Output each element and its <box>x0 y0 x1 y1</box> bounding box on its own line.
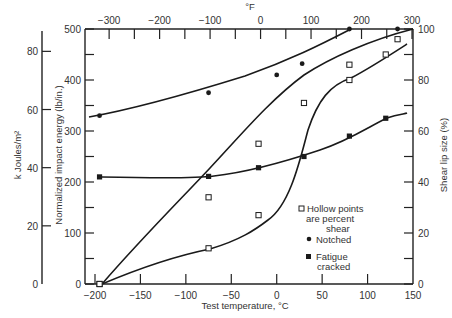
y-right-axis-ticks: 020406080100 <box>404 24 435 290</box>
y-right-tick-label: 0 <box>418 279 424 290</box>
fatigue-point <box>301 154 306 159</box>
y-right-tick-label: 80 <box>418 75 430 86</box>
x2-tick-label: 200 <box>353 15 370 26</box>
notched-point <box>206 90 211 95</box>
fatigue-shear-curve <box>102 44 407 284</box>
shear-point <box>395 37 400 42</box>
kj-tick-label: 0 <box>32 279 38 290</box>
y-tick-label: 500 <box>64 24 81 35</box>
notched-point <box>274 73 279 78</box>
filled-square-icon <box>306 254 311 259</box>
kj-axis: 020406080 <box>27 31 51 290</box>
legend-notched: Notched <box>316 234 351 245</box>
kj-tick-label: 80 <box>27 46 39 57</box>
shear-point <box>347 62 352 67</box>
x-tick-label: −200 <box>84 290 107 301</box>
shear-point <box>206 246 211 251</box>
y-tick-label: 0 <box>75 279 81 290</box>
x-axis-title: Test temperature, °C <box>201 300 288 311</box>
notched-point <box>395 27 400 32</box>
kj-tick-label: 40 <box>27 163 39 174</box>
filled-circle-icon <box>307 237 312 242</box>
x2-tick-label: 0 <box>258 15 264 26</box>
fatigue-point <box>97 174 102 179</box>
shear-point <box>97 281 102 286</box>
shear-point <box>206 195 211 200</box>
legend-hollow-line3: shear <box>326 223 350 234</box>
x2-tick-label: −300 <box>98 15 121 26</box>
x2-axis-title: °F <box>245 1 255 12</box>
notched-point <box>347 27 352 32</box>
shear-point <box>383 52 388 57</box>
notched-energy-curve <box>89 29 351 117</box>
fatigue-energy-curve <box>102 113 407 178</box>
y-right-tick-label: 60 <box>418 126 430 137</box>
x2-tick-label: −200 <box>148 15 171 26</box>
shear-point <box>347 77 352 82</box>
x-tick-label: 50 <box>317 290 329 301</box>
y-tick-label: 200 <box>64 177 81 188</box>
data-markers <box>97 27 400 287</box>
y-right-axis-title: Shear lip size (%) <box>438 118 449 192</box>
kj-tick-label: 20 <box>27 221 39 232</box>
legend-fatigue-line2: cracked <box>317 261 350 272</box>
x2-tick-label: 300 <box>404 15 421 26</box>
impact-energy-chart: 020406080 0100200300400500 020406080100 … <box>0 0 452 318</box>
x2-tick-label: 100 <box>303 15 320 26</box>
notched-point <box>97 113 102 118</box>
x-tick-label: −100 <box>175 290 198 301</box>
curves <box>89 29 413 284</box>
x-tick-label: 150 <box>405 290 422 301</box>
fatigue-point <box>206 174 211 179</box>
y-axis-ticks: 0100200300400500 <box>64 24 94 290</box>
y-right-tick-label: 20 <box>418 228 430 239</box>
kj-axis-title: k Joules/m² <box>12 131 23 180</box>
y-tick-label: 300 <box>64 126 81 137</box>
y-tick-label: 100 <box>64 228 81 239</box>
fatigue-point <box>256 165 261 170</box>
shear-point <box>301 100 306 105</box>
fatigue-point <box>383 116 388 121</box>
x-tick-label: 100 <box>359 290 376 301</box>
x2-tick-label: −100 <box>199 15 222 26</box>
notched-point <box>300 61 305 66</box>
plot-frame <box>85 29 413 284</box>
shear-point <box>256 141 261 146</box>
y-tick-label: 400 <box>64 75 81 86</box>
y-right-tick-label: 100 <box>418 24 435 35</box>
notched-shear-curve <box>102 29 413 284</box>
x-tick-label: −150 <box>129 290 152 301</box>
hollow-square-icon <box>299 206 304 211</box>
shear-point <box>256 213 261 218</box>
kj-tick-label: 60 <box>27 105 39 116</box>
legend: Hollow points are percent shear Notched … <box>299 203 364 272</box>
x-axis-ticks: −200−150−100−50050100150 <box>84 274 422 301</box>
y-axis-title: Normalized impact energy (lb/in.) <box>53 85 64 224</box>
y-right-tick-label: 40 <box>418 177 430 188</box>
x2-axis-ticks: −300−200−1000100200300 <box>98 15 421 39</box>
fatigue-point <box>347 134 352 139</box>
